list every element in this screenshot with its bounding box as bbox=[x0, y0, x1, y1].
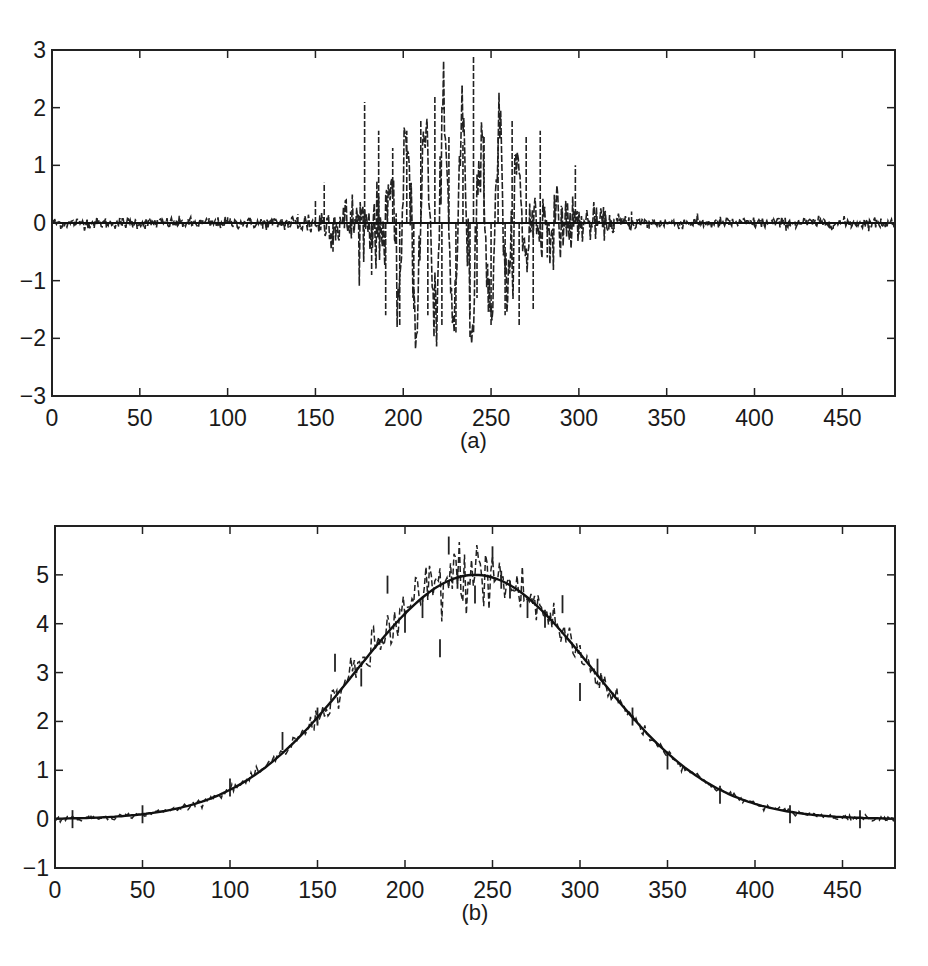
x-tick-label: 350 bbox=[648, 877, 686, 903]
x-tick-label: 400 bbox=[735, 405, 773, 431]
x-tick-label: 450 bbox=[823, 877, 861, 903]
plot-a-caption: (a) bbox=[460, 428, 487, 453]
y-tick-label: −1 bbox=[23, 855, 49, 881]
x-tick-label: 150 bbox=[296, 405, 334, 431]
x-tick-label: 100 bbox=[211, 877, 249, 903]
plot-a-data-lines bbox=[52, 56, 895, 349]
figure: 050100150200250300350400450−3−2−10123 (a… bbox=[0, 0, 928, 966]
x-tick-label: 450 bbox=[823, 405, 861, 431]
plot-b-ticks: 050100150200250300350400450−1012345 bbox=[23, 526, 895, 903]
x-tick-label: 0 bbox=[46, 405, 59, 431]
x-tick-label: 50 bbox=[130, 877, 156, 903]
plot-a: 050100150200250300350400450−3−2−10123 (a… bbox=[20, 37, 895, 453]
x-tick-label: 50 bbox=[127, 405, 153, 431]
x-tick-label: 200 bbox=[384, 405, 422, 431]
x-tick-label: 200 bbox=[386, 877, 424, 903]
plot-b: 050100150200250300350400450−1012345 (b) bbox=[23, 526, 895, 925]
y-tick-label: 3 bbox=[36, 660, 49, 686]
gaussian-envelope-line bbox=[55, 575, 895, 819]
x-tick-label: 300 bbox=[560, 405, 598, 431]
y-tick-label: −1 bbox=[20, 268, 46, 294]
y-tick-label: 5 bbox=[36, 562, 49, 588]
y-tick-label: 0 bbox=[33, 210, 46, 236]
y-tick-label: 4 bbox=[36, 611, 49, 637]
y-tick-label: −2 bbox=[20, 325, 46, 351]
x-tick-label: 100 bbox=[208, 405, 246, 431]
y-tick-label: 1 bbox=[36, 757, 49, 783]
x-tick-label: 300 bbox=[561, 877, 599, 903]
x-tick-label: 150 bbox=[298, 877, 336, 903]
x-tick-label: 400 bbox=[736, 877, 774, 903]
y-tick-label: 2 bbox=[33, 95, 46, 121]
y-tick-label: 2 bbox=[36, 708, 49, 734]
y-tick-label: 1 bbox=[33, 152, 46, 178]
y-tick-label: −3 bbox=[20, 383, 46, 409]
plot-b-data-lines bbox=[55, 537, 895, 829]
x-tick-label: 350 bbox=[648, 405, 686, 431]
noisy-estimate-line bbox=[55, 542, 895, 822]
x-tick-label: 0 bbox=[49, 877, 62, 903]
y-tick-label: 0 bbox=[36, 806, 49, 832]
y-tick-label: 3 bbox=[33, 37, 46, 63]
plot-b-caption: (b) bbox=[462, 900, 489, 925]
